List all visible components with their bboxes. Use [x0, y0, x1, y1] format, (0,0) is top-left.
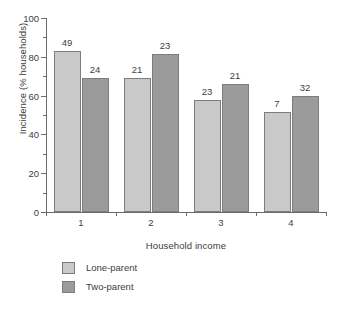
bar-chart-figure: Incidence (% households) Household incom… — [0, 0, 338, 313]
bar-value-label: 23 — [160, 40, 171, 51]
y-tick-minor — [43, 193, 46, 194]
bar — [152, 54, 179, 212]
x-tick-mark — [186, 212, 187, 216]
bar — [292, 96, 319, 212]
x-tick-mark — [116, 212, 117, 216]
bar-value-label: 23 — [202, 86, 213, 97]
x-tick-mark — [256, 212, 257, 216]
x-tick-mark — [326, 212, 327, 216]
y-tick-label: 100 — [23, 13, 39, 24]
bar — [222, 84, 249, 212]
y-tick-mark — [41, 134, 46, 135]
bar-value-label: 21 — [230, 70, 241, 81]
bar-value-label: 7 — [274, 98, 279, 109]
bar — [194, 100, 221, 212]
plot-area: 020406080100 1234 492421232321732 — [46, 18, 326, 212]
y-tick-minor — [43, 37, 46, 38]
legend-swatch — [62, 281, 75, 293]
y-tick-mark — [41, 173, 46, 174]
legend-swatch — [62, 262, 75, 274]
bar — [82, 78, 109, 212]
bar-value-label: 21 — [132, 64, 143, 75]
y-axis-line — [46, 18, 47, 212]
y-tick-minor — [43, 154, 46, 155]
x-tick-label: 2 — [148, 217, 153, 228]
y-tick-label: 0 — [34, 207, 39, 218]
y-tick-label: 20 — [28, 168, 39, 179]
legend-label: Two-parent — [86, 281, 134, 292]
bar-value-label: 24 — [90, 64, 101, 75]
x-axis-title: Household income — [46, 240, 326, 251]
bar — [54, 51, 81, 212]
x-tick-label: 1 — [78, 217, 83, 228]
bar-value-label: 32 — [300, 82, 311, 93]
bar — [264, 112, 291, 212]
y-tick-label: 40 — [28, 129, 39, 140]
y-tick-label: 60 — [28, 90, 39, 101]
chart-legend: Lone-parentTwo-parent — [62, 258, 137, 296]
bar — [124, 78, 151, 212]
y-tick-mark — [41, 57, 46, 58]
y-axis-title: Incidence (% households) — [17, 0, 28, 169]
y-tick-mark — [41, 96, 46, 97]
bar-value-label: 49 — [62, 37, 73, 48]
legend-item: Two-parent — [62, 277, 137, 296]
y-tick-minor — [43, 115, 46, 116]
x-tick-label: 4 — [288, 217, 293, 228]
legend-item: Lone-parent — [62, 258, 137, 277]
x-tick-mark — [46, 212, 47, 216]
y-tick-minor — [43, 76, 46, 77]
y-tick-mark — [41, 18, 46, 19]
legend-label: Lone-parent — [86, 262, 137, 273]
y-tick-label: 80 — [28, 51, 39, 62]
x-tick-label: 3 — [218, 217, 223, 228]
